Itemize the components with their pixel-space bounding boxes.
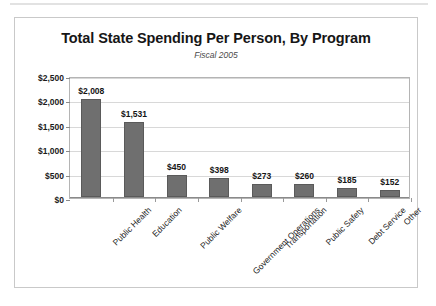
x-axis-category-label: Public Safety — [324, 205, 366, 247]
bar-group[interactable]: $260 — [294, 184, 314, 197]
x-axis-line — [70, 197, 409, 198]
chart-subtitle: Fiscal 2005 — [15, 50, 417, 60]
bar-value-label: $185 — [338, 175, 357, 185]
y-axis-label: $1,000 — [38, 146, 64, 156]
gridline — [70, 127, 409, 128]
bar[interactable] — [167, 175, 187, 197]
x-axis-category-label: Public Health — [111, 205, 153, 247]
y-axis-label: $0 — [55, 195, 64, 205]
bar[interactable] — [81, 99, 101, 197]
bar-value-label: $2,008 — [78, 86, 104, 96]
chart-title: Total State Spending Per Person, By Prog… — [15, 30, 417, 46]
bar-group[interactable]: $185 — [337, 188, 357, 197]
bar-value-label: $450 — [167, 162, 186, 172]
x-axis-category-label: Debt Service — [366, 205, 407, 246]
y-axis-tick — [66, 127, 70, 128]
y-axis-label: $2,000 — [38, 97, 64, 107]
x-axis-category-label: Education — [150, 205, 184, 239]
bar-group[interactable]: $152 — [380, 190, 400, 197]
plot-area: $0$500$1,000$1,500$2,000$2,500$2,008$1,5… — [69, 77, 410, 199]
bar[interactable] — [380, 190, 400, 197]
gridline — [70, 151, 409, 152]
bar-value-label: $152 — [380, 177, 399, 187]
bar-value-label: $398 — [210, 165, 229, 175]
y-axis-label: $1,500 — [38, 122, 64, 132]
bar-group[interactable]: $2,008 — [81, 99, 101, 197]
gridline — [70, 102, 409, 103]
bar[interactable] — [209, 178, 229, 197]
chart-frame: Total State Spending Per Person, By Prog… — [14, 17, 418, 288]
y-axis-tick — [66, 78, 70, 79]
bar[interactable] — [337, 188, 357, 197]
x-axis-category-label: Transportation — [283, 205, 329, 251]
bar-value-label: $1,531 — [121, 109, 147, 119]
bar[interactable] — [294, 184, 314, 197]
bar-group[interactable]: $398 — [209, 178, 229, 197]
bar-value-label: $273 — [252, 171, 271, 181]
x-axis-category-label: Public Welfare — [198, 205, 244, 251]
y-axis-tick — [66, 151, 70, 152]
gridline — [70, 78, 409, 79]
x-axis-category-labels: Public HealthEducationPublic WelfareGove… — [69, 199, 410, 284]
x-axis-tick — [411, 198, 412, 202]
bar[interactable] — [124, 122, 144, 197]
bar-group[interactable]: $450 — [167, 175, 187, 197]
bar-group[interactable]: $273 — [252, 184, 272, 197]
bar-value-label: $260 — [295, 171, 314, 181]
bar[interactable] — [252, 184, 272, 197]
gridline — [70, 176, 409, 177]
bar-group[interactable]: $1,531 — [124, 122, 144, 197]
scan-artifact-line — [10, 3, 428, 5]
y-axis-tick — [66, 102, 70, 103]
y-axis-tick — [66, 176, 70, 177]
y-axis-label: $2,500 — [38, 73, 64, 83]
y-axis-label: $500 — [45, 171, 64, 181]
